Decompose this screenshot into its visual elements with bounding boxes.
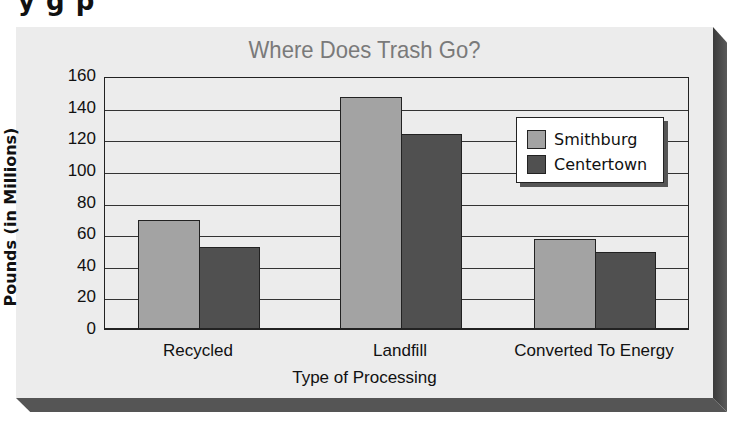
- y-axis-label: Pounds (in Millions): [1, 117, 20, 317]
- panel-3d-side: [713, 27, 727, 412]
- legend-item-smithburg: Smithburg: [527, 128, 637, 150]
- legend: Smithburg Centertown: [516, 117, 664, 183]
- x-tick-label: Landfill: [300, 341, 500, 361]
- x-axis-label: Type of Processing: [16, 368, 713, 388]
- panel-3d-bottom: [16, 398, 727, 412]
- x-tick-label: Recycled: [98, 341, 298, 361]
- y-tick-label: 120: [56, 129, 96, 149]
- legend-label: Smithburg: [554, 130, 637, 149]
- bar-centertown-converted-to-energy: [595, 252, 656, 328]
- y-tick-label: 40: [56, 256, 96, 276]
- y-tick-label: 60: [56, 224, 96, 244]
- bar-smithburg-recycled: [138, 220, 200, 328]
- legend-swatch: [527, 130, 546, 149]
- legend-label: Centertown: [554, 155, 647, 174]
- bar-centertown-recycled: [199, 247, 260, 328]
- y-tick-label: 140: [56, 98, 96, 118]
- chart-title: Where Does Trash Go?: [44, 36, 685, 64]
- bar-smithburg-landfill: [340, 97, 402, 328]
- y-tick-label: 100: [56, 161, 96, 181]
- chart-panel: Where Does Trash Go? Pounds (in Millions…: [16, 27, 713, 398]
- y-tick-label: 80: [56, 193, 96, 213]
- legend-swatch: [527, 155, 546, 174]
- x-tick-label: Converted To Energy: [494, 341, 694, 361]
- bar-smithburg-converted-to-energy: [534, 239, 596, 328]
- y-tick-label: 20: [56, 287, 96, 307]
- plot-area: [104, 77, 689, 330]
- cut-off-heading: y g p: [18, 0, 95, 16]
- y-tick-label: 0: [56, 319, 96, 339]
- bar-centertown-landfill: [401, 134, 462, 328]
- y-tick-label: 160: [56, 66, 96, 86]
- legend-item-centertown: Centertown: [527, 153, 647, 175]
